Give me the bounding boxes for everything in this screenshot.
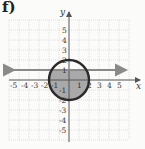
svg-text:-2: -2: [41, 81, 49, 90]
svg-text:3: 3: [62, 46, 67, 55]
svg-text:4: 4: [107, 81, 112, 90]
svg-text:-3: -3: [31, 81, 39, 90]
x-axis-label: x: [136, 81, 141, 91]
svg-text:2: 2: [62, 56, 67, 65]
svg-text:5: 5: [117, 81, 122, 90]
svg-text:4: 4: [62, 36, 67, 45]
svg-text:-1: -1: [59, 86, 66, 95]
svg-text:-1: -1: [51, 81, 58, 90]
svg-text:3: 3: [97, 81, 102, 90]
svg-text:1: 1: [77, 81, 82, 90]
svg-text:1: 1: [62, 66, 67, 75]
svg-text:2: 2: [87, 81, 92, 90]
coordinate-plane: y x -5 -4 -3 -2 -1 1 2 3 4 5 5 4 3 2 1 -…: [0, 0, 145, 149]
svg-text:5: 5: [62, 26, 67, 35]
svg-text:-3: -3: [59, 106, 67, 115]
svg-text:-5: -5: [10, 81, 18, 90]
svg-text:-5: -5: [59, 126, 67, 135]
svg-text:-4: -4: [59, 116, 67, 125]
svg-text:-4: -4: [21, 81, 29, 90]
y-axis-label: y: [59, 7, 66, 17]
svg-text:-2: -2: [59, 96, 67, 105]
